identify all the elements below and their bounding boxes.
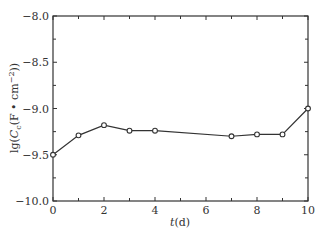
x-axis-unit: (d) <box>174 216 190 229</box>
x-tick-label: 4 <box>152 204 159 217</box>
y-label-prefix: lg( <box>8 138 21 153</box>
x-axis: 0246810 <box>50 16 316 217</box>
line-chart: 0246810 −10.0−9.5−9.0−8.5−8.0 t(d) lg(Cc… <box>0 0 318 236</box>
x-axis-title: t(d) <box>170 216 190 229</box>
x-tick-label: 6 <box>203 204 210 217</box>
data-point-marker <box>229 134 234 139</box>
y-label-superscript: −2 <box>7 72 16 84</box>
data-point-marker <box>153 128 158 133</box>
series-line <box>53 109 308 155</box>
data-point-marker <box>255 132 260 137</box>
data-point-marker <box>280 132 285 137</box>
y-axis: −10.0−9.5−9.0−8.5−8.0 <box>15 10 308 208</box>
y-tick-label: −9.5 <box>22 149 49 162</box>
y-tick-label: −8.0 <box>22 10 49 23</box>
y-tick-label: −9.0 <box>22 103 49 116</box>
y-label-unit: (F • cm <box>8 83 21 126</box>
x-tick-label: 0 <box>50 204 57 217</box>
data-point-marker <box>127 128 132 133</box>
x-tick-label: 2 <box>101 204 108 217</box>
data-point-marker <box>306 106 311 111</box>
data-series <box>51 106 311 157</box>
data-point-marker <box>51 152 56 157</box>
x-tick-label: 8 <box>254 204 261 217</box>
x-tick-label: 10 <box>301 204 315 217</box>
plot-frame <box>53 16 308 201</box>
y-axis-title: lg(Cc(F • cm−2)) <box>7 63 23 153</box>
data-point-marker <box>76 133 81 138</box>
data-point-marker <box>102 123 107 128</box>
y-tick-label: −10.0 <box>15 195 49 208</box>
y-label-suffix: )) <box>8 63 21 72</box>
y-tick-label: −8.5 <box>22 56 49 69</box>
